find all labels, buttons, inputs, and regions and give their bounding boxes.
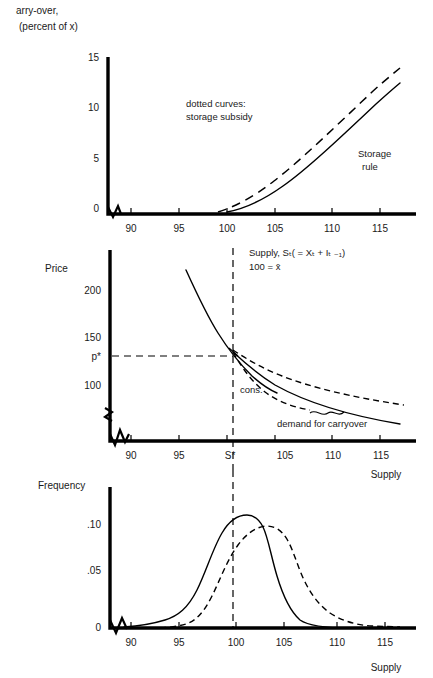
panel2-yaxis-title: Price (45, 263, 68, 274)
panel1-xtick-95: 95 (173, 223, 185, 234)
panel-demand-for-carryover: 200 150 p* 100 90 95 S* 105 110 115 Pric… (45, 247, 416, 480)
panel3-xtick-115: 115 (377, 637, 393, 648)
panel2-xtick-90: 90 (125, 450, 137, 461)
panel2-ytick-150: 150 (84, 332, 101, 343)
consumption-label: cons. (240, 384, 263, 395)
dotted-curves-note-line1: dotted curves: (186, 98, 246, 109)
panel2-xtick-sstar: S* (225, 450, 236, 461)
panel2-ytick-pstar: p* (92, 351, 102, 362)
consumption-curve (186, 270, 277, 393)
panel1-ytick-5: 5 (93, 153, 99, 164)
panel-storage-rule: 15 10 5 0 90 95 100 105 110 115 arry-ove… (16, 5, 416, 234)
panel2-ytick-200: 200 (84, 285, 101, 296)
supply-definition-line1: Supply, Sₜ( = Xₜ + Iₜ ₋₁) (249, 247, 345, 258)
figure-container: 15 10 5 0 90 95 100 105 110 115 arry-ove… (0, 0, 433, 678)
panel-frequency: .10 .05 0 90 95 100 105 110 115 Frequenc… (38, 470, 416, 673)
frequency-curve-dashed (150, 526, 400, 628)
panel1-ytick-10: 10 (88, 102, 100, 113)
demand-carryover-curve-dashed-upper (233, 350, 404, 405)
panel1-ytick-0: 0 (93, 203, 99, 214)
demand-label-leader (310, 412, 344, 415)
panel3-xtick-110: 110 (329, 637, 345, 648)
panel3-xtick-105: 105 (276, 637, 293, 648)
panel3-xtick-95: 95 (173, 637, 185, 648)
panel1-xtick-90: 90 (125, 223, 137, 234)
panel1-yaxis-title-line1: arry-over, (16, 5, 58, 16)
demand-curve-label: demand for carryover (277, 418, 367, 429)
frequency-curve-solid (124, 515, 400, 628)
panel2-xaxis-break-icon (110, 430, 129, 445)
demand-carryover-curve-dashed-lower (233, 352, 310, 410)
panel1-xtick-105: 105 (267, 223, 284, 234)
panel2-xtick-95: 95 (173, 450, 185, 461)
panel3-xtick-90: 90 (125, 637, 137, 648)
panel3-xtick-100: 100 (228, 637, 245, 648)
storage-rule-label-line1: Storage (358, 148, 391, 159)
panel3-axis-break-icon (110, 618, 127, 633)
panel1-xtick-115: 115 (372, 223, 388, 234)
panel2-xtick-115: 115 (373, 450, 389, 461)
panel2-axes (110, 250, 416, 441)
panel1-xtick-100: 100 (219, 223, 236, 234)
panel2-xtick-110: 110 (325, 450, 341, 461)
storage-rule-label-line2: rule (362, 161, 378, 172)
panel3-ytick-05: .05 (87, 565, 101, 576)
panel1-yaxis-title-line2: (percent of x) (19, 21, 78, 32)
panel3-ytick-10: .10 (87, 519, 101, 530)
panel1-ytick-15: 15 (88, 52, 100, 63)
panel2-xaxis-title: Supply (371, 469, 402, 480)
panel2-xtick-105: 105 (277, 450, 294, 461)
panel1-xtick-110: 110 (324, 223, 340, 234)
panel3-axes (110, 487, 416, 628)
supply-definition-line2: 100 = x̄ (249, 261, 281, 272)
storage-subsidy-curve (218, 68, 400, 212)
panel2-ytick-100: 100 (84, 380, 101, 391)
panel3-ytick-0: 0 (95, 622, 101, 633)
panel3-yaxis-title: Frequency (38, 480, 85, 491)
dotted-curves-note-line2: storage subsidy (186, 111, 253, 122)
panel3-xaxis-title: Supply (371, 662, 402, 673)
figure-svg: 15 10 5 0 90 95 100 105 110 115 arry-ove… (0, 0, 433, 678)
